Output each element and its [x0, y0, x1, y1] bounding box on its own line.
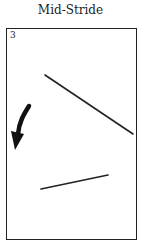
curved-arrow-down-left-icon	[11, 106, 29, 150]
panel-art	[0, 0, 141, 242]
lower-diagonal-line	[41, 175, 108, 189]
upper-diagonal-line	[45, 75, 133, 134]
